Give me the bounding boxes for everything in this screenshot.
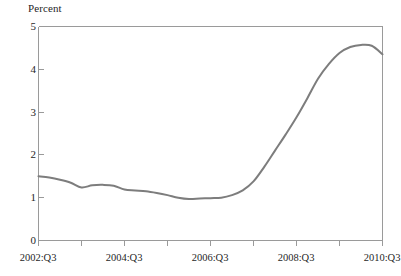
x-tick-label-2004q3: 2004:Q3 <box>79 252 169 264</box>
y-tick-label-4: 4 <box>14 64 36 75</box>
y-axis-ticks <box>39 27 44 241</box>
x-tick-label-2006q3: 2006:Q3 <box>165 252 255 264</box>
x-tick-label-2008q3: 2008:Q3 <box>251 252 341 264</box>
x-tick-label-2002q3: 2002:Q3 <box>0 252 83 264</box>
y-tick-label-5: 5 <box>14 21 36 32</box>
plot-area <box>0 0 401 276</box>
y-tick-label-0: 0 <box>14 235 36 246</box>
y-tick-label-1: 1 <box>14 192 36 203</box>
x-axis-ticks <box>39 241 383 246</box>
x-tick-label-2010q3: 2010:Q3 <box>337 252 401 264</box>
y-tick-label-3: 3 <box>14 107 36 118</box>
y-tick-label-2: 2 <box>14 149 36 160</box>
chart-container: Percent 5 4 3 2 <box>0 0 401 276</box>
data-series-line <box>39 45 383 199</box>
plot-frame <box>39 27 383 241</box>
